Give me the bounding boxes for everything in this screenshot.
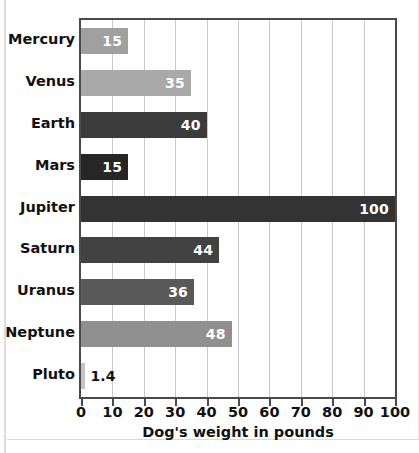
x-tick-label: 80 bbox=[322, 404, 342, 420]
category-label-mars: Mars bbox=[0, 152, 75, 178]
bar-value-label: 40 bbox=[181, 117, 207, 133]
category-label-neptune: Neptune bbox=[0, 319, 75, 345]
x-tick-label: 30 bbox=[165, 404, 185, 420]
x-tick-label: 90 bbox=[354, 404, 374, 420]
bar-value-label: 15 bbox=[102, 33, 128, 49]
x-axis-title: Dog's weight in pounds bbox=[79, 424, 397, 440]
x-tick-label: 10 bbox=[102, 404, 122, 420]
category-axis-labels: MercuryVenusEarthMarsJupiterSaturnUranus… bbox=[0, 18, 75, 399]
bar-value-label: 36 bbox=[168, 284, 194, 300]
bar-row: 15 bbox=[81, 28, 395, 54]
category-label-earth: Earth bbox=[0, 110, 75, 136]
bar-row: 15 bbox=[81, 154, 395, 180]
bar-row: 48 bbox=[81, 321, 395, 347]
category-label-saturn: Saturn bbox=[0, 235, 75, 261]
bar-row: 1.4 bbox=[81, 363, 395, 389]
x-tick-label: 70 bbox=[291, 404, 311, 420]
bar-value-label: 1.4 bbox=[85, 368, 115, 384]
category-label-venus: Venus bbox=[0, 68, 75, 94]
x-tick-label: 60 bbox=[259, 404, 279, 420]
category-label-mercury: Mercury bbox=[0, 26, 75, 52]
x-axis-tick-labels: 0102030405060708090100 bbox=[0, 404, 419, 424]
bar-mercury[interactable]: 15 bbox=[81, 28, 128, 54]
x-tick-label: 100 bbox=[380, 404, 410, 420]
bar-chart-figure: MercuryVenusEarthMarsJupiterSaturnUranus… bbox=[0, 0, 419, 453]
category-label-pluto: Pluto bbox=[0, 361, 75, 387]
category-label-jupiter: Jupiter bbox=[0, 194, 75, 220]
bar-uranus[interactable]: 36 bbox=[81, 279, 194, 305]
plot-area: 153540151004436481.4 bbox=[79, 18, 397, 399]
bar-row: 44 bbox=[81, 237, 395, 263]
bar-saturn[interactable]: 44 bbox=[81, 237, 219, 263]
bar-value-label: 48 bbox=[206, 326, 232, 342]
bar-earth[interactable]: 40 bbox=[81, 112, 207, 138]
bar-neptune[interactable]: 48 bbox=[81, 321, 232, 347]
bar-row: 40 bbox=[81, 112, 395, 138]
bar-value-label: 35 bbox=[165, 75, 191, 91]
x-tick-label: 0 bbox=[76, 404, 86, 420]
bar-pluto[interactable]: 1.4 bbox=[81, 363, 85, 389]
x-tick-label: 20 bbox=[134, 404, 154, 420]
x-tick-label: 40 bbox=[197, 404, 217, 420]
bar-value-label: 100 bbox=[359, 201, 395, 217]
category-label-uranus: Uranus bbox=[0, 277, 75, 303]
bar-row: 100 bbox=[81, 196, 395, 222]
bar-row: 35 bbox=[81, 70, 395, 96]
bar-jupiter[interactable]: 100 bbox=[81, 196, 395, 222]
bar-value-label: 44 bbox=[193, 242, 219, 258]
bar-series: 153540151004436481.4 bbox=[81, 20, 395, 397]
bar-mars[interactable]: 15 bbox=[81, 154, 128, 180]
bar-venus[interactable]: 35 bbox=[81, 70, 191, 96]
x-tick-label: 50 bbox=[228, 404, 248, 420]
bar-value-label: 15 bbox=[102, 159, 128, 175]
bar-row: 36 bbox=[81, 279, 395, 305]
